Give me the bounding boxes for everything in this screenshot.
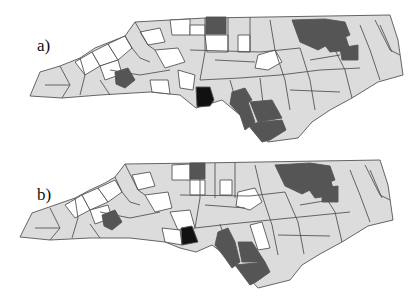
map-panel-b: b) <box>0 150 415 300</box>
county <box>190 25 205 35</box>
county <box>150 80 170 94</box>
county-dark <box>340 45 358 60</box>
county-dark <box>322 186 338 202</box>
county <box>170 19 190 35</box>
county-dark <box>206 17 226 34</box>
county <box>220 180 232 195</box>
county-dark <box>215 242 240 268</box>
nc-county-map-b <box>0 150 415 300</box>
map-panel-a: a) <box>0 0 415 150</box>
county <box>172 164 190 180</box>
county-black <box>196 87 214 107</box>
county <box>162 228 182 245</box>
county <box>205 35 228 52</box>
nc-county-map-a <box>0 0 415 150</box>
county <box>190 180 205 195</box>
county <box>238 35 250 52</box>
county-dark <box>190 163 205 179</box>
